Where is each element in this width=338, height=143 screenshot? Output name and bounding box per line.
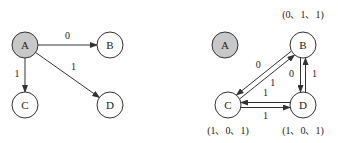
node-label-B: B (106, 39, 113, 51)
edge-label-D-C: 1 (263, 87, 268, 98)
edge-A-D (36, 52, 100, 97)
node-label-C: C (21, 99, 28, 111)
node-label-B: B (299, 39, 306, 51)
right-graph: 010111AB(0、1、1)C(1、0、1)D(1、0、1) (207, 9, 324, 137)
edge-label-A-B: 0 (65, 30, 70, 41)
edge-label-A-D: 1 (71, 61, 76, 72)
node-label-A: A (221, 39, 229, 51)
graph-diagram: 011ABCD 010111AB(0、1、1)C(1、0、1)D(1、0、1) (0, 0, 338, 143)
node-label-A: A (21, 39, 29, 51)
node-vector-C: (1、0、1) (207, 125, 249, 137)
edge-label-C-D: 1 (263, 110, 268, 121)
edge-label-D-B: 1 (312, 68, 317, 79)
edge-label-B-C: 0 (256, 59, 261, 70)
edge-label-C-B: 1 (270, 77, 275, 88)
edge-label-A-C: 1 (15, 68, 20, 79)
node-label-C: C (224, 99, 231, 111)
node-vector-D: (1、0、1) (282, 125, 324, 137)
edge-label-B-D: 0 (289, 68, 294, 79)
left-graph: 011ABCD (12, 30, 123, 118)
node-label-D: D (106, 99, 114, 111)
node-label-D: D (299, 99, 307, 111)
node-vector-B: (0、1、1) (282, 9, 324, 21)
